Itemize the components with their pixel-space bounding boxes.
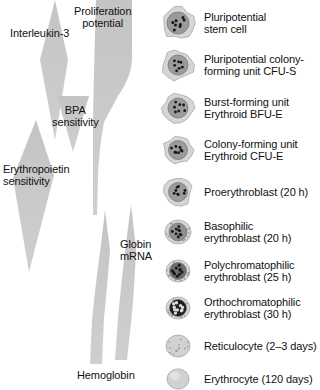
cell-stage-row: Orthochromatophilic erythroblast (30 h): [158, 289, 301, 327]
cell-icon-orthochromatophilic-erythroblast: [158, 289, 200, 327]
cell-label-orthochromatophilic-erythroblast: Orthochromatophilic erythroblast (30 h): [204, 296, 301, 321]
cell-label-cfu-s: Pluripotential colony- forming unit CFU-…: [204, 53, 304, 78]
cell-stage-row: Pluripotential colony- forming unit CFU-…: [158, 46, 304, 84]
factor-label-hemoglobin: Hemoglobin: [77, 369, 135, 381]
cell-label-polychromatophilic-erythroblast: Polychromatophilic erythroblast (25 h): [204, 259, 295, 284]
cell-label-cfu-e: Colony-forming unit Erythroid CFU-E: [204, 138, 297, 163]
wedge-proliferation-potential: [93, 0, 132, 215]
cell-label-bfu-e: Burst-forming unit Erythroid BFU-E: [204, 96, 289, 121]
cell-label-proerythroblast: Proerythroblast (20 h): [204, 186, 308, 198]
cell-icon-cfu-e: [158, 131, 200, 169]
factor-label-interleukin-3: Interleukin-3: [10, 27, 69, 39]
factor-label-globin-mrna: Globin mRNA: [120, 238, 152, 263]
cell-stage-row: Erythrocyte (120 days): [158, 360, 312, 390]
cell-icon-erythrocyte: [158, 360, 200, 390]
cell-label-erythrocyte: Erythrocyte (120 days): [204, 373, 312, 385]
cell-icon-polychromatophilic-erythroblast: [158, 252, 200, 290]
factor-label-erythropoietin-sensitivity: Erythropoietin sensitivity: [3, 163, 69, 188]
erythropoiesis-diagram: Interleukin-3 Proliferation potential BP…: [0, 0, 320, 390]
cell-label-basophilic-erythroblast: Basophilic erythroblast (20 h): [204, 220, 291, 245]
cell-stage-row: Burst-forming unit Erythroid BFU-E: [158, 89, 289, 127]
cell-icon-basophilic-erythroblast: [158, 213, 200, 251]
factor-label-proliferation-potential: Proliferation potential: [74, 5, 131, 30]
wedge-erythropoietin-sensitivity: [13, 120, 54, 272]
wedge-hemoglobin: [90, 210, 110, 364]
cell-stage-row: Proerythroblast (20 h): [158, 173, 308, 211]
cell-icon-cfu-s: [158, 46, 200, 84]
cell-icon-pluripotential-stem-cell: [158, 4, 200, 42]
cell-icon-bfu-e: [158, 89, 200, 127]
factor-label-bpa-sensitivity: BPA sensitivity: [52, 104, 99, 129]
wedge-globin-mrna: [115, 205, 136, 360]
cell-label-pluripotential-stem-cell: Pluripotential stem cell: [204, 11, 266, 36]
cell-stage-row: Basophilic erythroblast (20 h): [158, 213, 291, 251]
cell-stage-row: Polychromatophilic erythroblast (25 h): [158, 252, 295, 290]
cell-stage-row: Colony-forming unit Erythroid CFU-E: [158, 131, 297, 169]
cell-icon-proerythroblast: [158, 173, 200, 211]
cell-label-reticulocyte: Reticulocyte (2–3 days): [204, 340, 317, 352]
cell-stage-row: Pluripotential stem cell: [158, 4, 266, 42]
